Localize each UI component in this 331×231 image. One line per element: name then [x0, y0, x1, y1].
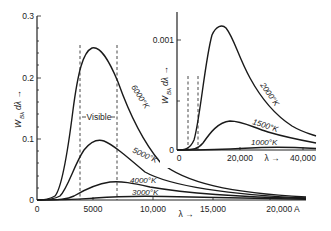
label-6000K: 6000°K — [129, 83, 151, 111]
x-axis-label: λ → — [178, 209, 193, 219]
y-tick-0: 0 — [29, 195, 34, 205]
visible-label: Visible — [87, 112, 112, 122]
inset-x-tick-40000: 40,000 — [290, 153, 316, 163]
x-tick-5000: 5000 — [84, 204, 103, 214]
svg-text:Bλ: Bλ — [166, 88, 172, 95]
svg-text:dλ →: dλ → — [13, 90, 23, 110]
y-tick-0.1: 0.1 — [22, 134, 34, 144]
x-tick-10000: 10,000 — [140, 204, 166, 214]
main-y-axis: 0.3 0.2 0.1 0 — [22, 11, 41, 205]
label-4000K: 4000°K — [130, 176, 157, 185]
svg-text:Bλ: Bλ — [19, 112, 25, 119]
inset-y-tick-0.001: 0.001 — [153, 35, 175, 45]
x-tick-15000: 15,000 — [200, 204, 226, 214]
blackbody-radiation-chart: 0.3 0.2 0.1 0 W Bλ dλ → 0 5000 10,000 15… — [0, 0, 331, 231]
x-tick-20000: 20,000 A — [266, 204, 300, 214]
main-x-axis: 0 5000 10,000 15,000 20,000 A λ → — [35, 197, 306, 219]
svg-text:dλ →: dλ → — [160, 66, 170, 86]
main-y-label: W Bλ dλ → — [13, 90, 25, 128]
chart-svg: 0.3 0.2 0.1 0 W Bλ dλ → 0 5000 10,000 15… — [0, 0, 331, 231]
y-tick-0.2: 0.2 — [22, 73, 34, 83]
svg-text:W: W — [13, 119, 23, 128]
inset-y-tick-0: 0 — [169, 145, 174, 155]
inset-x-tick-0: 0 — [177, 153, 182, 163]
x-tick-0: 0 — [35, 204, 40, 214]
inset-x-tick-20000: 20,000 — [227, 153, 253, 163]
label-1000K: 1000°K — [251, 138, 278, 147]
label-5000K: 5000°K — [131, 146, 159, 166]
svg-text:W: W — [160, 95, 170, 104]
label-3000K: 3000°K — [132, 188, 159, 197]
y-tick-0.3: 0.3 — [22, 11, 34, 21]
inset-background — [160, 3, 330, 168]
inset-x-axis-label: λ → — [264, 153, 279, 163]
